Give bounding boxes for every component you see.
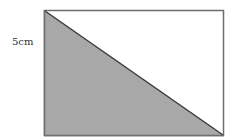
- height-label: 5cm: [12, 36, 34, 47]
- diagram-figure: 5cm: [0, 0, 232, 139]
